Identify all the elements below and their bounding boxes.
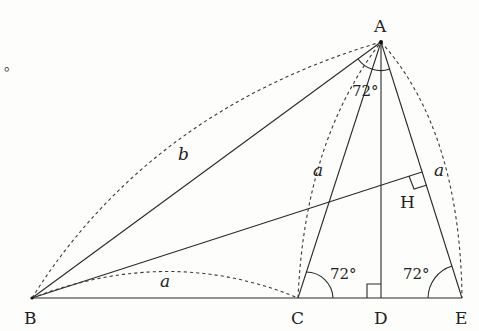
geometry-diagram: 。 A B C D E H b a a a 72° 72° 72°	[0, 0, 479, 331]
segment-label-AC: a	[313, 160, 323, 180]
label-B: B	[24, 308, 37, 328]
segment-AC	[298, 42, 381, 298]
point-A-dot	[379, 40, 383, 44]
angle-arc-C	[306, 272, 333, 298]
angle-arc-E	[428, 266, 452, 298]
right-angle-D	[367, 284, 381, 298]
label-D: D	[374, 308, 388, 328]
segment-BH	[32, 172, 422, 298]
text-fragment: 。	[4, 57, 18, 73]
segment-label-AB: b	[178, 144, 189, 164]
point-B-dot	[30, 296, 33, 299]
label-E: E	[455, 308, 467, 328]
angle-label-C: 72°	[330, 265, 357, 283]
segment-label-AE: a	[434, 160, 444, 180]
angle-label-E: 72°	[403, 265, 430, 283]
label-A: A	[373, 16, 387, 36]
angle-label-A: 72°	[352, 82, 379, 100]
segment-label-BC: a	[160, 271, 170, 291]
segment-AB	[32, 42, 381, 298]
label-C: C	[291, 308, 304, 328]
segment-AE	[381, 42, 462, 298]
label-H: H	[400, 192, 415, 212]
